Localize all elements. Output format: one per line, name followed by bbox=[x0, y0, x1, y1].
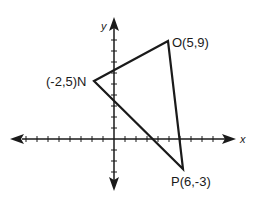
x-axis-left-arrow-icon bbox=[10, 134, 24, 144]
vertex-label-P: P(6,-3) bbox=[171, 174, 211, 189]
x-axis: x bbox=[10, 133, 246, 145]
triangle-NOP bbox=[94, 41, 183, 169]
coordinate-plane: x y (-2,5)N O(5,9) P(6,-3) bbox=[0, 0, 257, 203]
y-axis-label: y bbox=[100, 20, 108, 32]
vertex-label-N: (-2,5)N bbox=[46, 74, 86, 89]
vertex-label-O: O(5,9) bbox=[172, 35, 209, 50]
x-axis-label: x bbox=[239, 133, 246, 145]
